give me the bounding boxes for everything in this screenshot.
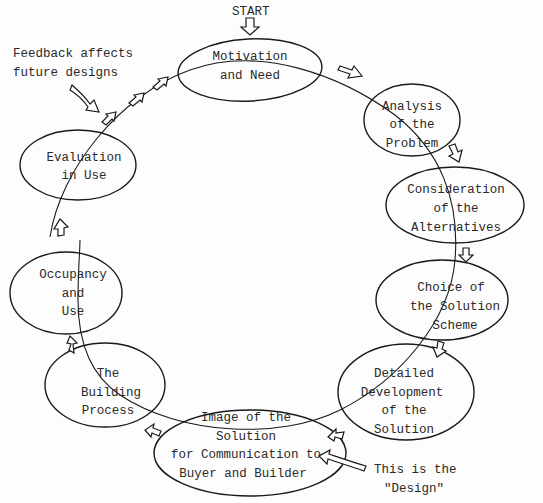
arrow-left-icon [145, 424, 161, 437]
feedback-arrow-icon [129, 93, 144, 106]
node-occupancy-line-3: Use [62, 305, 85, 319]
diagram-svg: START Motivation and Need Analysis of th… [0, 0, 543, 503]
node-detailed-line-1: Detailed [374, 367, 434, 381]
node-building-line-3: Process [82, 404, 135, 418]
arrow-down-icon [449, 144, 462, 162]
feedback-annotation-line-2: future designs [13, 66, 118, 80]
node-occupancy: Occupancy and Use [39, 268, 107, 319]
node-image: Image of the Solution for Communication … [171, 411, 321, 481]
node-detailed: Detailed Development of the Solution [361, 367, 444, 437]
node-analysis-line-2: of the [389, 118, 434, 132]
start-label: START [232, 5, 270, 19]
node-alternatives: Consideration of the Alternatives [407, 183, 505, 235]
start-arrow-icon [241, 18, 259, 35]
feedback-curved-arrow-icon [70, 85, 99, 112]
node-evaluation-line-2: in Use [61, 169, 106, 183]
arrow-up-icon [54, 219, 68, 236]
node-motivation: Motivation and Need [212, 50, 287, 83]
design-cycle-diagram: START Motivation and Need Analysis of th… [0, 0, 543, 503]
arrow-down-icon [459, 248, 473, 262]
node-detailed-line-3: of the [381, 404, 426, 418]
node-analysis-line-3: Problem [386, 137, 439, 151]
node-building: The Building Process [81, 367, 141, 418]
node-occupancy-line-2: and [62, 287, 85, 301]
node-image-line-4: Buyer and Builder [179, 467, 307, 481]
node-analysis-line-1: Analysis [382, 100, 442, 114]
node-choice: Choice of the Solution Scheme [410, 281, 500, 333]
node-alternatives-line-1: Consideration [407, 183, 505, 197]
arrow-up-icon [67, 336, 77, 353]
node-motivation-line-1: Motivation [212, 50, 287, 64]
node-building-line-2: Building [81, 386, 141, 400]
node-detailed-line-2: Development [361, 386, 444, 400]
node-evaluation-line-1: Evaluation [46, 151, 121, 165]
node-image-line-2: Solution [216, 430, 276, 444]
node-evaluation: Evaluation in Use [46, 151, 121, 183]
node-occupancy-line-1: Occupancy [39, 268, 107, 282]
node-detailed-line-4: Solution [374, 423, 434, 437]
design-annotation-line-2: "Design" [384, 482, 444, 496]
node-alternatives-line-2: of the [433, 202, 478, 216]
node-choice-line-3: Scheme [432, 319, 477, 333]
arrow-left-icon [328, 429, 344, 441]
node-choice-line-1: Choice of [417, 281, 485, 295]
arrow-right-icon [338, 66, 362, 78]
feedback-arrow-icon [153, 77, 168, 90]
feedback-arrow-icon [102, 112, 116, 125]
design-curved-arrow-icon [319, 450, 366, 471]
node-building-line-1: The [97, 367, 120, 381]
node-image-line-3: for Communication to [171, 448, 321, 462]
node-alternatives-line-3: Alternatives [411, 221, 501, 235]
design-annotation-line-1: This is the [374, 463, 457, 477]
node-image-line-1: Image of the [201, 411, 291, 425]
node-motivation-line-2: and Need [220, 69, 280, 83]
node-choice-line-2: the Solution [410, 300, 500, 314]
node-analysis: Analysis of the Problem [382, 100, 442, 151]
feedback-annotation-line-1: Feedback affects [13, 47, 133, 61]
arrow-down-icon [433, 341, 446, 357]
